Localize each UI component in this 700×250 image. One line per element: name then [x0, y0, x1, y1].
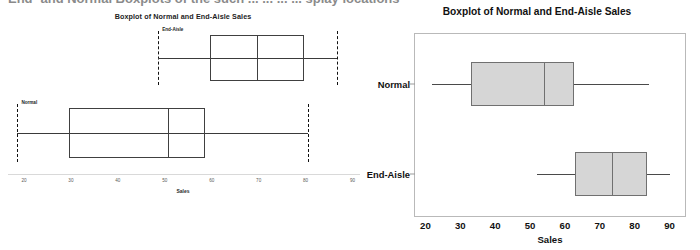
- chart-left-x-tick-90: 90: [350, 178, 355, 183]
- chart-left-x-tick-60: 60: [209, 178, 214, 183]
- chart-right-x-tick-70: 70: [594, 220, 605, 231]
- chart-left-x-axis-title: Sales: [0, 188, 366, 194]
- chart-right-title: Boxplot of Normal and End-Aisle Sales: [378, 6, 696, 17]
- chart-left-plot-area: End-AisleNormal: [16, 32, 350, 167]
- series-label-end-aisle: End-Aisle: [162, 27, 183, 32]
- boxplot-chart-left: Boxplot of Normal and End-Aisle Sales En…: [0, 12, 366, 212]
- series-label-normal: Normal: [21, 100, 37, 105]
- chart-left-x-tick-70: 70: [256, 178, 261, 183]
- chart-left-x-tick-40: 40: [115, 178, 120, 183]
- chart-right-y-tick-normal: [410, 84, 415, 85]
- box-normal: [471, 62, 574, 106]
- chart-right-x-tick-40: 40: [490, 220, 501, 231]
- chart-left-x-axis-line: [8, 174, 360, 175]
- chart-right-y-label-normal: Normal: [378, 79, 410, 90]
- whisker-cap-normal-max: [308, 104, 309, 162]
- chart-right-x-tick-20: 20: [420, 220, 431, 231]
- chart-right-x-axis-title: Sales: [414, 234, 686, 245]
- chart-right-x-tick-80: 80: [629, 220, 640, 231]
- median-line-normal: [168, 108, 169, 158]
- chart-right-x-tick-30: 30: [455, 220, 466, 231]
- chart-right-y-tick-end-aisle: [410, 174, 415, 175]
- chart-left-x-tick-30: 30: [68, 178, 73, 183]
- boxplot-chart-right: Boxplot of Normal and End-Aisle Sales No…: [378, 6, 696, 250]
- chart-left-x-tick-20: 20: [21, 178, 26, 183]
- chart-right-y-label-end-aisle: End-Aisle: [367, 169, 410, 180]
- box-normal: [69, 108, 205, 158]
- chart-right-x-tick-90: 90: [664, 220, 675, 231]
- chart-left-x-tick-80: 80: [303, 178, 308, 183]
- median-line-normal: [544, 62, 545, 106]
- chart-left-x-tick-50: 50: [162, 178, 167, 183]
- whisker-cap-end-aisle-max: [337, 31, 338, 85]
- chart-left-title: Boxplot of Normal and End-Aisle Sales: [0, 12, 366, 21]
- median-line-end-aisle: [612, 152, 613, 196]
- chart-right-x-tick-50: 50: [525, 220, 536, 231]
- median-line-end-aisle: [257, 35, 258, 81]
- chart-right-plot-area: NormalEnd-Aisle2030405060708090: [414, 33, 686, 217]
- chart-right-x-tick-60: 60: [560, 220, 571, 231]
